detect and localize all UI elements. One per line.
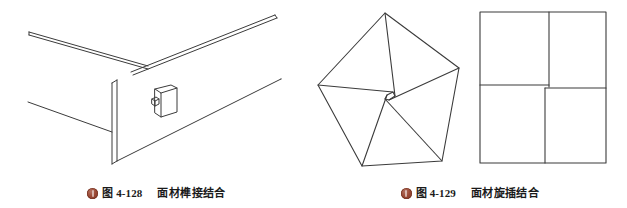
figure-panel-pinwheel-joint: 图 4-129 面材旋插结合 bbox=[313, 0, 627, 208]
face-panel-top-edge bbox=[133, 75, 281, 79]
caption-figure-4-128: 图 4-128 面材榫接结合 bbox=[0, 188, 313, 199]
square-pinwheel bbox=[480, 12, 606, 163]
illustration-page: 图 4-128 面材榫接结合 bbox=[0, 0, 627, 208]
book-badge-icon bbox=[401, 188, 412, 199]
figure-panel-tenon-joint: 图 4-128 面材榫接结合 bbox=[0, 0, 313, 208]
vertical-edge-board bbox=[112, 80, 117, 164]
face-panel-right bbox=[117, 79, 281, 161]
caption-title: 面材旋插结合 bbox=[471, 188, 539, 199]
horizontal-rail-left bbox=[29, 32, 148, 69]
book-badge-icon bbox=[87, 188, 98, 199]
tenon-block-with-peg bbox=[152, 85, 177, 117]
caption-number: 图 4-128 bbox=[102, 188, 142, 199]
pentagon-pinwheel bbox=[318, 13, 459, 166]
face-panel-left-edge bbox=[28, 102, 112, 132]
caption-figure-4-129: 图 4-129 面材旋插结合 bbox=[313, 188, 627, 199]
panel-pinwheel-joint-diagram bbox=[313, 0, 627, 175]
caption-number: 图 4-129 bbox=[416, 188, 456, 199]
caption-title: 面材榫接结合 bbox=[157, 188, 225, 199]
horizontal-rail-right bbox=[131, 15, 277, 75]
panel-tenon-joint-isometric-drawing bbox=[0, 0, 313, 175]
